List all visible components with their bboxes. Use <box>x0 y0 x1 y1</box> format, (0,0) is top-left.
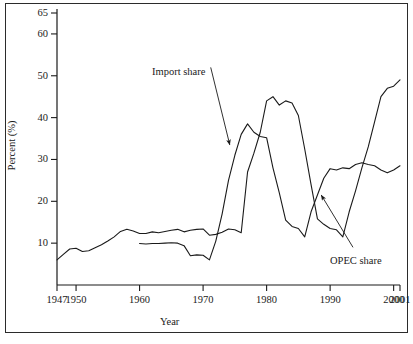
x-tick-label: 1950 <box>59 295 93 306</box>
y-tick-label: 65 <box>20 8 48 19</box>
x-tick-label: 1970 <box>186 295 220 306</box>
annotation-opec-share: OPEC share <box>330 255 382 266</box>
annotation-arrow <box>211 67 230 144</box>
y-tick-label: 40 <box>20 113 48 124</box>
y-tick-label: 10 <box>20 238 48 249</box>
x-tick-label: 1980 <box>250 295 284 306</box>
series-line-import-share <box>57 80 400 260</box>
figure-container: Percent (%) Year Import share OPEC share… <box>0 0 413 344</box>
chart-canvas <box>0 0 413 344</box>
x-tick-marks <box>57 285 400 291</box>
annotation-import-share: Import share <box>152 66 205 77</box>
x-tick-label: 1990 <box>313 295 347 306</box>
x-tick-label: 1960 <box>123 295 157 306</box>
y-tick-marks <box>51 13 57 243</box>
y-tick-label: 60 <box>20 29 48 40</box>
data-series-group <box>57 80 400 260</box>
x-axis-label: Year <box>160 316 179 327</box>
annotation-arrow <box>321 195 353 247</box>
x-tick-label: 2001 <box>383 295 413 306</box>
y-tick-label: 20 <box>20 196 48 207</box>
y-tick-label: 50 <box>20 71 48 82</box>
y-axis-label: Percent (%) <box>6 116 17 176</box>
y-tick-label: 30 <box>20 154 48 165</box>
axes-group <box>57 9 400 285</box>
series-line-opec-share <box>140 124 400 260</box>
annotation-arrows <box>211 67 353 247</box>
